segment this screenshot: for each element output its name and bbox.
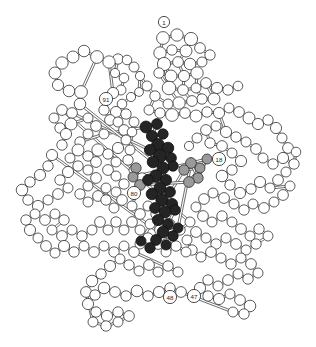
residue-label: 80 [127,186,140,199]
protein-atom [197,57,207,67]
protein-atom [127,201,137,211]
protein-atom [50,209,60,219]
protein-atom [111,157,121,167]
protein-atom [205,138,215,148]
protein-atom [166,109,179,122]
protein-atom [213,293,224,304]
protein-atom [67,225,77,235]
protein-atom [113,307,123,317]
protein-atom [91,307,101,317]
protein-atom [83,113,93,123]
heteroatom [202,154,212,164]
protein-atom [173,97,185,109]
protein-atom [226,259,236,269]
heteroatom [195,163,205,173]
protein-atom [125,145,135,155]
protein-atom [239,205,249,215]
protein-atom [291,147,301,157]
protein-atom [236,253,246,263]
protein-atom [234,107,245,118]
protein-atom [135,88,144,97]
protein-atom [224,103,234,113]
ligand-atom [152,214,163,225]
protein-atom [277,152,288,163]
protein-atom [90,290,100,300]
protein-atom [34,169,45,180]
protein-atom [208,188,218,198]
protein-atom [144,260,155,271]
protein-atom [167,45,177,55]
protein-atom [43,195,53,205]
protein-atom [73,161,83,171]
ligand-atom [170,205,180,215]
protein-atom [278,190,289,201]
protein-atom [121,291,131,301]
protein-atom [251,144,262,155]
protein-atom [254,224,264,234]
protein-atom [153,286,164,297]
residue-label-text: 91 [102,96,110,103]
ligand-atom [168,231,178,241]
protein-atom [101,183,111,193]
protein-atom [254,176,265,187]
protein-atom [163,99,173,109]
protein-atom [77,231,87,241]
protein-atom [201,78,212,89]
protein-atom [181,247,191,257]
protein-atom [110,68,119,77]
protein-atom [41,241,52,252]
protein-atom [157,32,170,45]
protein-atom [24,224,35,235]
protein-atom [191,227,202,238]
protein-atom [225,289,235,299]
protein-atom [104,260,115,271]
protein-atom [231,132,241,142]
protein-atom [101,321,111,331]
protein-atom [289,159,299,169]
protein-atom [233,81,243,91]
protein-atom [153,267,163,277]
protein-atom [86,275,98,287]
protein-atom [119,241,129,251]
protein-atom [63,85,75,97]
protein-atom [178,85,189,96]
protein-atom [129,117,139,127]
molecule-canvas: 19180184847 [0,0,316,347]
protein-atom [60,128,71,139]
protein-atom [248,199,258,209]
protein-atom [235,295,246,306]
protein-atom [187,96,198,107]
protein-atom [135,209,146,220]
protein-atom [23,195,33,205]
protein-atom [208,93,220,105]
protein-atom [99,105,109,115]
protein-atom [113,317,123,327]
protein-atom [178,70,189,81]
protein-atom [165,70,177,82]
protein-atom [109,203,119,213]
protein-atom [199,194,210,205]
protein-atom [47,225,57,235]
protein-atom [83,181,93,191]
protein-atom [62,166,73,177]
ligand-atom [136,236,146,246]
protein-atom [65,153,75,163]
protein-atom [103,56,115,68]
protein-atom [265,183,275,193]
protein-atom [258,153,268,163]
protein-atom [75,189,85,199]
protein-atom [115,254,125,264]
protein-atom [58,240,69,251]
protein-atom [126,92,135,101]
protein-atom [191,202,201,212]
residue-label-text: 18 [215,156,223,163]
protein-atom [50,248,60,258]
protein-atom [207,217,217,227]
protein-atom [143,291,153,301]
protein-atom [223,85,233,95]
protein-atom [236,224,247,235]
protein-atom [233,269,243,279]
protein-atom [202,107,212,117]
protein-atom [78,45,90,57]
protein-atom [88,317,98,327]
